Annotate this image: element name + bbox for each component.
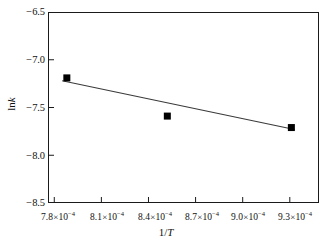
x-axis-ticks (54, 197, 290, 203)
data-point-marker (63, 74, 70, 81)
plot-canvas (48, 12, 319, 203)
y-tick-label: −8.0 (1, 150, 45, 161)
x-tick-exponent: −4 (165, 210, 172, 217)
x-tick-mantissa: 9.3 (278, 212, 290, 222)
x-axis-title: 1/T (0, 226, 332, 238)
x-tick-base: 10 (108, 212, 118, 222)
x-tick-label: 8.1×10−4 (90, 212, 124, 222)
x-tick-exponent: −4 (68, 210, 75, 217)
x-tick-5: 9.3×10−4 (265, 206, 325, 224)
x-axis-title-italic: T (167, 226, 173, 238)
x-tick-label: 8.7×10−4 (185, 212, 219, 222)
x-tick-exponent: −4 (305, 210, 312, 217)
x-tick-label: 9.3×10−4 (278, 212, 312, 222)
x-tick-base: 10 (249, 212, 259, 222)
x-tick-mantissa: 7.8 (41, 212, 53, 222)
x-tick-mantissa: 8.7 (185, 212, 197, 222)
data-point-marker (164, 113, 171, 120)
x-tick-exponent: −4 (258, 210, 265, 217)
x-tick-mantissa: 8.4 (138, 212, 150, 222)
x-axis-title-prefix: 1/ (159, 226, 168, 238)
x-tick-mantissa: 8.1 (90, 212, 102, 222)
y-tick-3: −8.0 (0, 150, 45, 162)
x-tick-base: 10 (203, 212, 213, 222)
y-tick-2: −7.5 (0, 102, 45, 114)
x-tick-base: 10 (296, 212, 306, 222)
y-tick-label: −7.0 (1, 54, 45, 65)
linear-fit-line (62, 81, 294, 130)
x-tick-base: 10 (59, 212, 69, 222)
x-tick-exponent: −4 (117, 210, 124, 217)
arrhenius-plot-figure: lnk −6.5 −7.0 −7.5 −8.0 −8.5 (0, 0, 332, 246)
x-tick-label: 9.0×10−4 (231, 212, 265, 222)
data-point-marker (288, 124, 295, 131)
x-tick-mantissa: 9.0 (231, 212, 243, 222)
x-tick-base: 10 (156, 212, 166, 222)
y-tick-label: −7.5 (1, 102, 45, 113)
x-tick-label: 8.4×10−4 (138, 212, 172, 222)
y-tick-1: −7.0 (0, 54, 45, 66)
y-tick-label: −6.5 (1, 6, 45, 17)
y-tick-0: −6.5 (0, 6, 45, 18)
x-tick-label: 7.8×10−4 (41, 212, 75, 222)
y-axis-ticks (48, 13, 54, 203)
